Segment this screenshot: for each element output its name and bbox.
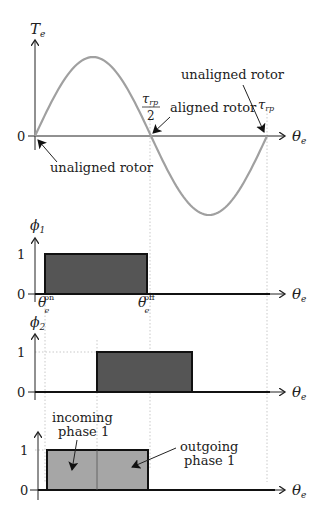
phase1-y-label: ϕ1 (30, 217, 45, 235)
phase1-plot: ϕ1 1 0 θe θeon θeoff (17, 217, 306, 315)
phase2-x-label: θe (292, 383, 306, 402)
arrow-aligned (153, 117, 170, 133)
torque-zero-tick: 0 (17, 129, 25, 144)
phase2-tick-zero: 0 (17, 385, 25, 400)
outgoing-label-line1: outgoing (180, 439, 238, 454)
tau-half-numerator: τrp (142, 91, 158, 107)
combined-pulse (47, 450, 148, 490)
phase2-plot: ϕ2 1 0 θe (17, 314, 306, 402)
phase2-tick-one: 1 (17, 345, 25, 360)
annotation-unaligned-start: unaligned rotor (50, 160, 154, 175)
phase1-tick-one: 1 (17, 247, 25, 262)
theta-off-label: θeoff (138, 293, 156, 315)
phase1-pulse (45, 254, 147, 294)
phase1-x-label: θe (292, 285, 306, 304)
theta-on-label: θeon (38, 293, 54, 315)
phase2-pulse (97, 352, 192, 392)
phase2-y-label: ϕ2 (30, 314, 46, 332)
combined-x-label: θe (292, 481, 306, 500)
torque-y-label: Te (30, 20, 45, 39)
combined-tick-one: 1 (20, 443, 28, 458)
phase1-tick-zero: 0 (17, 287, 25, 302)
tau-half-denominator: 2 (147, 109, 155, 123)
arrow-unaligned-start (38, 140, 57, 162)
incoming-label-line1: incoming (52, 410, 113, 425)
tau-label: τrp (258, 97, 274, 113)
annotation-aligned: aligned rotor (170, 100, 257, 115)
srm-torque-phase-diagram: Te 0 θe τrp 2 τrp unaligned rotor aligne… (0, 0, 319, 526)
outgoing-label-line2: phase 1 (184, 453, 235, 468)
annotation-unaligned-end: unaligned rotor (181, 67, 285, 82)
torque-x-label: θe (292, 127, 306, 146)
incoming-label-line2: phase 1 (58, 424, 109, 439)
torque-plot: Te 0 θe τrp 2 τrp unaligned rotor aligne… (17, 20, 306, 215)
combined-tick-zero: 0 (20, 483, 28, 498)
combined-plot: 1 0 θe incoming phase 1 outgoing phase 1 (20, 410, 306, 500)
